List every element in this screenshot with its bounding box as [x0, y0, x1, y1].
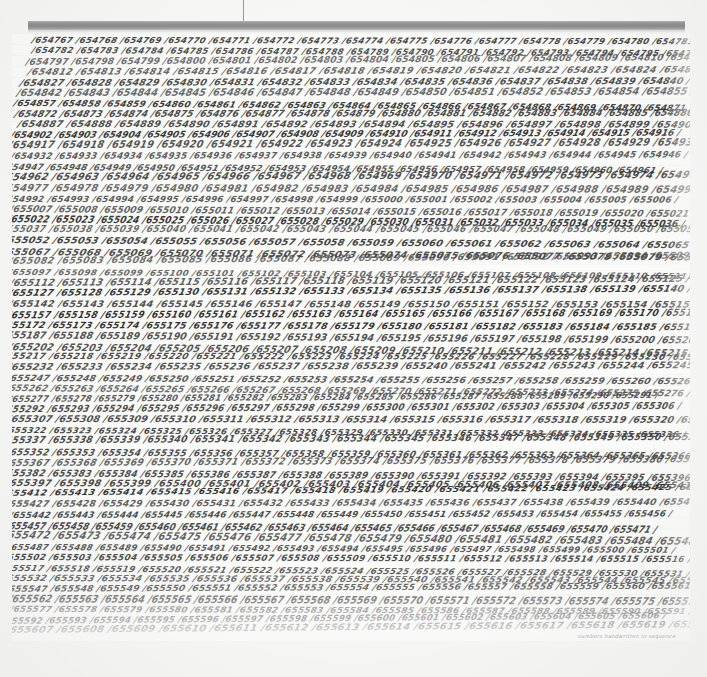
- number-line: /655442 /655443 /655444 /655445 /655446 …: [12, 508, 673, 520]
- number-line: /655502 /655503 /655504 /655505 /655506 …: [12, 552, 690, 564]
- number-line: /655127 /655128 /655129 /655130 /655131 …: [12, 283, 690, 298]
- number-line: /655157 /655158 /655159 /655160 /655161 …: [12, 307, 690, 320]
- number-line: /655547 /655548 /655549 /655550 /655551 …: [12, 581, 690, 594]
- numbers-canvas: /654767 /654768 /654769 /654770 /654771 …: [12, 33, 690, 641]
- number-line: /654932 /654933 /654934 /654935 /654936 …: [12, 150, 689, 162]
- number-line: /655367 /655368 /655369 /655370 /655371 …: [12, 453, 690, 468]
- number-line: /654842 /654843 /654844 /654845 /654846 …: [16, 86, 690, 98]
- number-sequence-field: /654767 /654768 /654769 /654770 /654771 …: [12, 33, 690, 641]
- number-line: /654992 /654993 /654994 /654995 /654996 …: [12, 194, 680, 204]
- number-line: /654962 /654963 /654964 /654965 /654966 …: [12, 170, 690, 183]
- number-line: /654977 /654978 /654979 /654980 /654981 …: [12, 183, 690, 195]
- number-line: /655292 /655293 /655294 /655295 /655296 …: [12, 400, 682, 414]
- number-line: /655337 /655338 /655339 /655340 /655341 …: [12, 432, 690, 446]
- number-line: /655427 /655428 /655429 /655430 /655431 …: [12, 497, 690, 509]
- number-line: /655037 /655038 /655039 /655040 /655041 …: [12, 224, 690, 235]
- number-line: /655232 /655233 /655234 /655235 /655236 …: [12, 361, 690, 373]
- screenshot-root: /654767 /654768 /654769 /654770 /654771 …: [0, 0, 707, 677]
- hanging-rail: [28, 21, 685, 30]
- number-line: /655307 /655308 /655309 /655310 /655311 …: [12, 414, 690, 425]
- hanging-wire-icon: [243, 0, 244, 23]
- number-line: /654917 /654918 /654919 /654920 /654921 …: [12, 136, 690, 150]
- canvas-caption: numbers handwritten in sequence: [578, 633, 676, 639]
